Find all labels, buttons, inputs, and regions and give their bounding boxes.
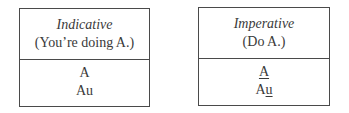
indicative-title: Indicative <box>57 16 113 34</box>
text-a: A <box>79 65 89 80</box>
text-au: Au <box>76 83 93 98</box>
text-a-underlined: A <box>259 64 269 79</box>
indicative-subtitle: (You’re doing A.) <box>35 34 134 52</box>
imperative-body: A Au <box>199 56 329 105</box>
imperative-line-2: Au <box>255 81 272 99</box>
imperative-title: Imperative <box>234 15 295 33</box>
imperative-subtitle: (Do A.) <box>243 33 286 51</box>
imperative-header: Imperative (Do A.) <box>199 8 329 59</box>
indicative-box: Indicative (You’re doing A.) A Au <box>19 8 150 107</box>
indicative-body: A Au <box>20 57 149 106</box>
imperative-box: Imperative (Do A.) A Au <box>198 7 330 106</box>
indicative-line-1: A <box>79 64 89 82</box>
indicative-line-2: Au <box>76 82 93 100</box>
imperative-line-1: A <box>259 63 269 81</box>
indicative-header: Indicative (You’re doing A.) <box>20 9 149 60</box>
text-u-underlined: u <box>266 82 273 97</box>
text-a: A <box>255 82 265 97</box>
